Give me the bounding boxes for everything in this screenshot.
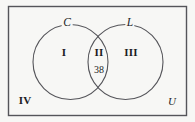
region-label-iii: III	[124, 47, 137, 58]
universe-label: U	[168, 96, 176, 107]
region-label-ii: II	[95, 47, 104, 58]
region-label-iv: IV	[19, 95, 32, 106]
set-circle-l	[88, 25, 163, 100]
set-label-l: L	[125, 17, 134, 29]
universe-rectangle	[9, 7, 187, 116]
intersection-count: 38	[94, 65, 104, 75]
region-label-i: I	[62, 47, 66, 58]
venn-diagram-figure: C L I II III 38 IV U	[0, 0, 195, 122]
set-label-c: C	[62, 17, 73, 29]
set-circle-c	[33, 25, 108, 100]
